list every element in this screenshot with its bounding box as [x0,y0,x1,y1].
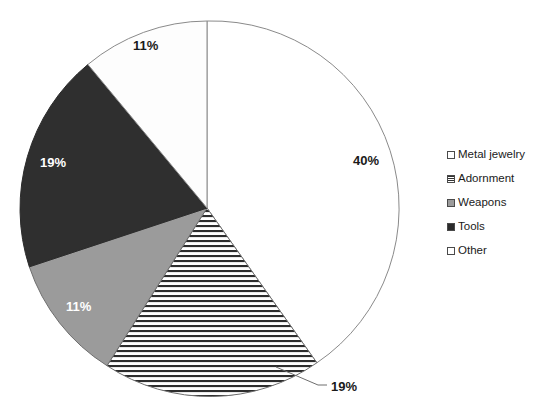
legend-item-weapons[interactable]: Weapons [447,191,546,215]
legend-label-metal-jewelry: Metal jewelry [458,149,525,161]
data-label-other: 11% [133,38,159,53]
legend-item-adornment[interactable]: Adornment [447,167,546,191]
chart-legend: Metal jewelry Adornment Weapons Tools Ot… [447,143,546,263]
swatch-gray-icon [447,199,455,207]
data-label-tools: 19% [40,155,66,170]
pie-chart-page: 40% 19% 11% 19% 11% Metal jewelry Adornm… [0,0,546,414]
legend-item-metal-jewelry[interactable]: Metal jewelry [447,143,546,167]
legend-item-tools[interactable]: Tools [447,215,546,239]
swatch-empty-icon [447,247,455,255]
pie-slices [20,21,399,397]
data-label-metal-jewelry: 40% [353,153,379,168]
data-label-weapons: 11% [66,299,92,314]
legend-label-weapons: Weapons [458,197,506,209]
swatch-empty-icon [447,151,455,159]
data-label-adornment: 19% [331,379,357,394]
swatch-black-icon [447,223,455,231]
legend-label-other: Other [458,245,487,257]
legend-label-adornment: Adornment [458,173,514,185]
legend-label-tools: Tools [458,221,485,233]
swatch-hatched-icon [447,175,455,183]
legend-item-other[interactable]: Other [447,239,546,263]
